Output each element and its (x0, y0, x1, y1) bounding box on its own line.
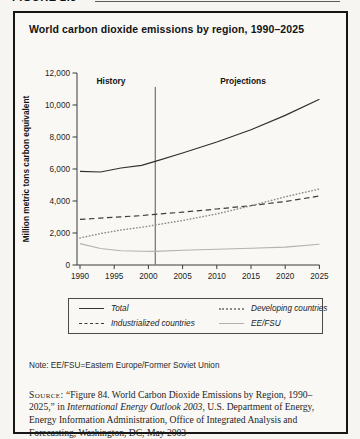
source-publication-title: International Energy Outlook 2003 (67, 401, 202, 412)
total-line-swatch-icon (79, 308, 104, 309)
chart-area: 02,0004,0006,0008,00010,00012,0001990199… (15, 57, 346, 292)
series-line-industrialized-countries (80, 196, 319, 219)
y-tick-label: 10,000 (45, 101, 70, 110)
x-tick-label: 2015 (242, 272, 261, 281)
series-line-developing-countries (80, 189, 319, 238)
y-tick-label: 0 (65, 261, 70, 270)
legend-item-industrialized: Industrialized countries (79, 319, 219, 328)
figure-number-label: FIGURE 2.3 (12, 0, 77, 3)
x-tick-label: 1990 (71, 272, 90, 281)
legend-item-eefsu: EE/FSU (219, 319, 316, 328)
x-tick-label: 1995 (105, 272, 124, 281)
chart-legend: Total Developing countries Industrialize… (68, 298, 323, 334)
x-tick-label: 2005 (173, 272, 192, 281)
series-line-ee-fsu (80, 244, 319, 252)
legend-item-total: Total (79, 304, 219, 313)
y-tick-label: 12,000 (45, 69, 70, 78)
source-paragraph: Source: “Figure 84. World Carbon Dioxide… (29, 389, 334, 439)
legend-label: Developing countries (251, 304, 327, 313)
x-tick-label: 2000 (139, 272, 158, 281)
note-text: Note: EE/FSU=Eastern Europe/Former Sovie… (29, 361, 219, 370)
figure-box: World carbon dioxide emissions by region… (13, 11, 348, 434)
y-tick-label: 2,000 (50, 229, 71, 238)
legend-label: Total (111, 304, 128, 313)
projections-label: Projections (220, 76, 266, 86)
eefsu-line-swatch-icon (219, 323, 244, 324)
legend-label: Industrialized countries (111, 319, 195, 328)
history-label: History (97, 76, 126, 86)
x-tick-label: 2025 (310, 272, 329, 281)
heading-rule (95, 1, 340, 2)
chart-title: World carbon dioxide emissions by region… (29, 23, 329, 35)
y-axis-title: Million metric tons carbon equivalent (21, 95, 31, 242)
industrialized-line-swatch-icon (79, 323, 104, 324)
developing-line-swatch-icon (219, 308, 244, 310)
source-label: Source: (29, 389, 64, 400)
series-line-total (80, 99, 319, 172)
y-tick-label: 8,000 (50, 133, 71, 142)
legend-item-developing: Developing countries (219, 304, 316, 313)
y-tick-label: 4,000 (50, 197, 71, 206)
emissions-chart: 02,0004,0006,0008,00010,00012,0001990199… (15, 57, 346, 292)
legend-label: EE/FSU (251, 319, 281, 328)
x-tick-label: 2010 (208, 272, 227, 281)
x-tick-label: 2020 (276, 272, 295, 281)
y-tick-label: 6,000 (50, 165, 71, 174)
